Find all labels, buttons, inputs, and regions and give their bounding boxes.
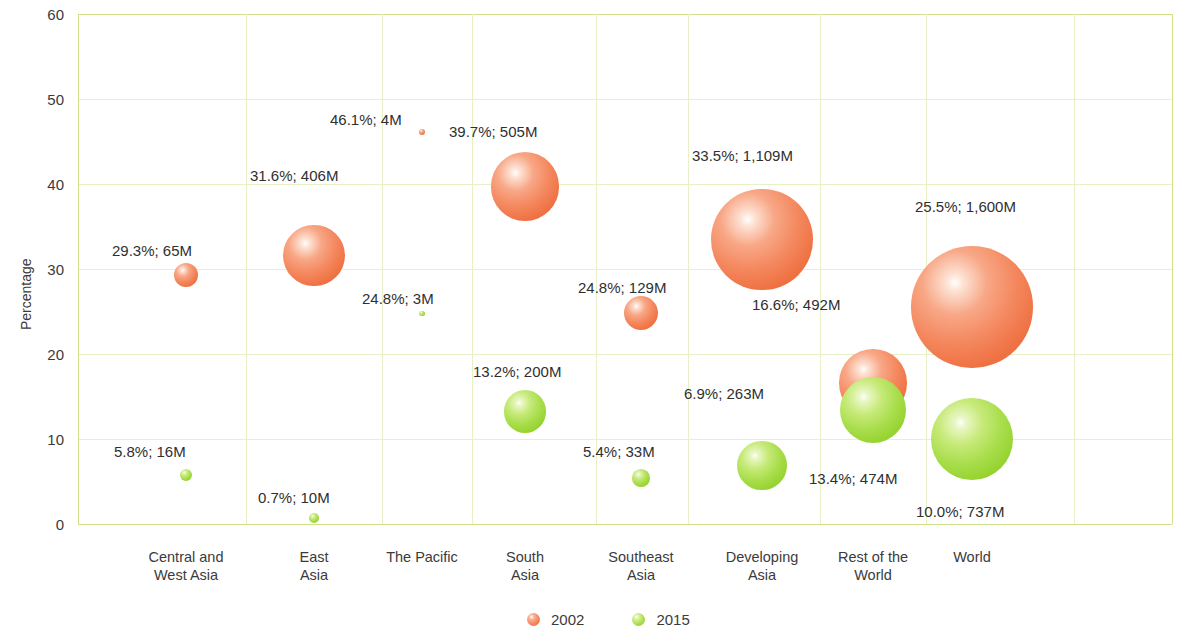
data-label-2015-east-asia: 0.7%; 10M [258, 490, 330, 505]
bubble-2015-the-pacific[interactable] [419, 311, 424, 316]
data-label-2002-central-and-west-asia: 29.3%; 65M [112, 243, 192, 258]
bubble-chart: Percentage 0102030405060 29.3%; 65M31.6%… [0, 0, 1181, 636]
bubble-2015-developing-asia[interactable] [737, 441, 786, 490]
gridline-horizontal [78, 184, 1172, 185]
bubble-2002-swatch-icon [527, 613, 540, 626]
data-label-2015-world: 10.0%; 737M [916, 504, 1004, 519]
bubble-2015-southeast-asia[interactable] [632, 469, 649, 486]
bubble-2015-south-asia[interactable] [504, 390, 547, 433]
data-label-2002-rest-of-the-world: 16.6%; 492M [752, 297, 840, 312]
data-label-2002-developing-asia: 33.5%; 1,109M [692, 148, 793, 163]
bubble-2015-rest-of-the-world[interactable] [840, 377, 906, 443]
x-axis-tick-world: World [897, 548, 1047, 566]
data-label-2015-central-and-west-asia: 5.8%; 16M [114, 444, 186, 459]
gridline-vertical [820, 14, 821, 524]
legend-item-2015[interactable]: 2015 [632, 612, 689, 627]
y-axis-tick-10: 10 [12, 432, 64, 447]
data-label-2002-the-pacific: 46.1%; 4M [330, 112, 402, 127]
legend-item-2002[interactable]: 2002 [527, 612, 584, 627]
y-axis-tick-60: 60 [12, 7, 64, 22]
data-label-2015-south-asia: 13.2%; 200M [473, 364, 561, 379]
data-label-2015-developing-asia: 6.9%; 263M [684, 386, 764, 401]
gridline-horizontal [78, 14, 1172, 15]
bubble-2015-world[interactable] [931, 398, 1014, 481]
data-label-2015-rest-of-the-world: 13.4%; 474M [809, 471, 897, 486]
gridline-vertical [688, 14, 689, 524]
bubble-2002-southeast-asia[interactable] [624, 296, 659, 331]
data-label-2002-east-asia: 31.6%; 406M [250, 168, 338, 183]
y-axis-tick-40: 40 [12, 177, 64, 192]
y-axis-tick-30: 30 [12, 262, 64, 277]
legend-label: 2002 [551, 612, 584, 627]
bubble-2002-south-asia[interactable] [491, 152, 559, 220]
data-label-2015-southeast-asia: 5.4%; 33M [583, 444, 655, 459]
bubble-2002-east-asia[interactable] [283, 225, 344, 286]
bubble-2015-east-asia[interactable] [309, 513, 319, 523]
bubble-2015-swatch-icon [632, 613, 645, 626]
gridline-vertical [1172, 14, 1173, 524]
bubble-2002-central-and-west-asia[interactable] [174, 263, 199, 288]
bubble-2002-world[interactable] [911, 246, 1033, 368]
gridline-vertical [382, 14, 383, 524]
bubble-2015-central-and-west-asia[interactable] [180, 469, 192, 481]
chart-legend: 20022015 [527, 612, 690, 627]
legend-label: 2015 [656, 612, 689, 627]
gridline-vertical [472, 14, 473, 524]
data-label-2002-world: 25.5%; 1,600M [915, 199, 1016, 214]
data-label-2015-the-pacific: 24.8%; 3M [362, 291, 434, 306]
gridline-horizontal [78, 524, 1172, 525]
y-axis-tick-20: 20 [12, 347, 64, 362]
gridline-vertical [246, 14, 247, 524]
gridline-vertical [1074, 14, 1075, 524]
bubble-2002-developing-asia[interactable] [711, 189, 812, 290]
y-axis-tick-0: 0 [12, 517, 64, 532]
y-axis-tick-50: 50 [12, 92, 64, 107]
bubble-2002-the-pacific[interactable] [419, 129, 425, 135]
gridline-vertical [78, 14, 79, 524]
data-label-2002-south-asia: 39.7%; 505M [449, 124, 537, 139]
data-label-2002-southeast-asia: 24.8%; 129M [578, 280, 666, 295]
gridline-horizontal [78, 99, 1172, 100]
